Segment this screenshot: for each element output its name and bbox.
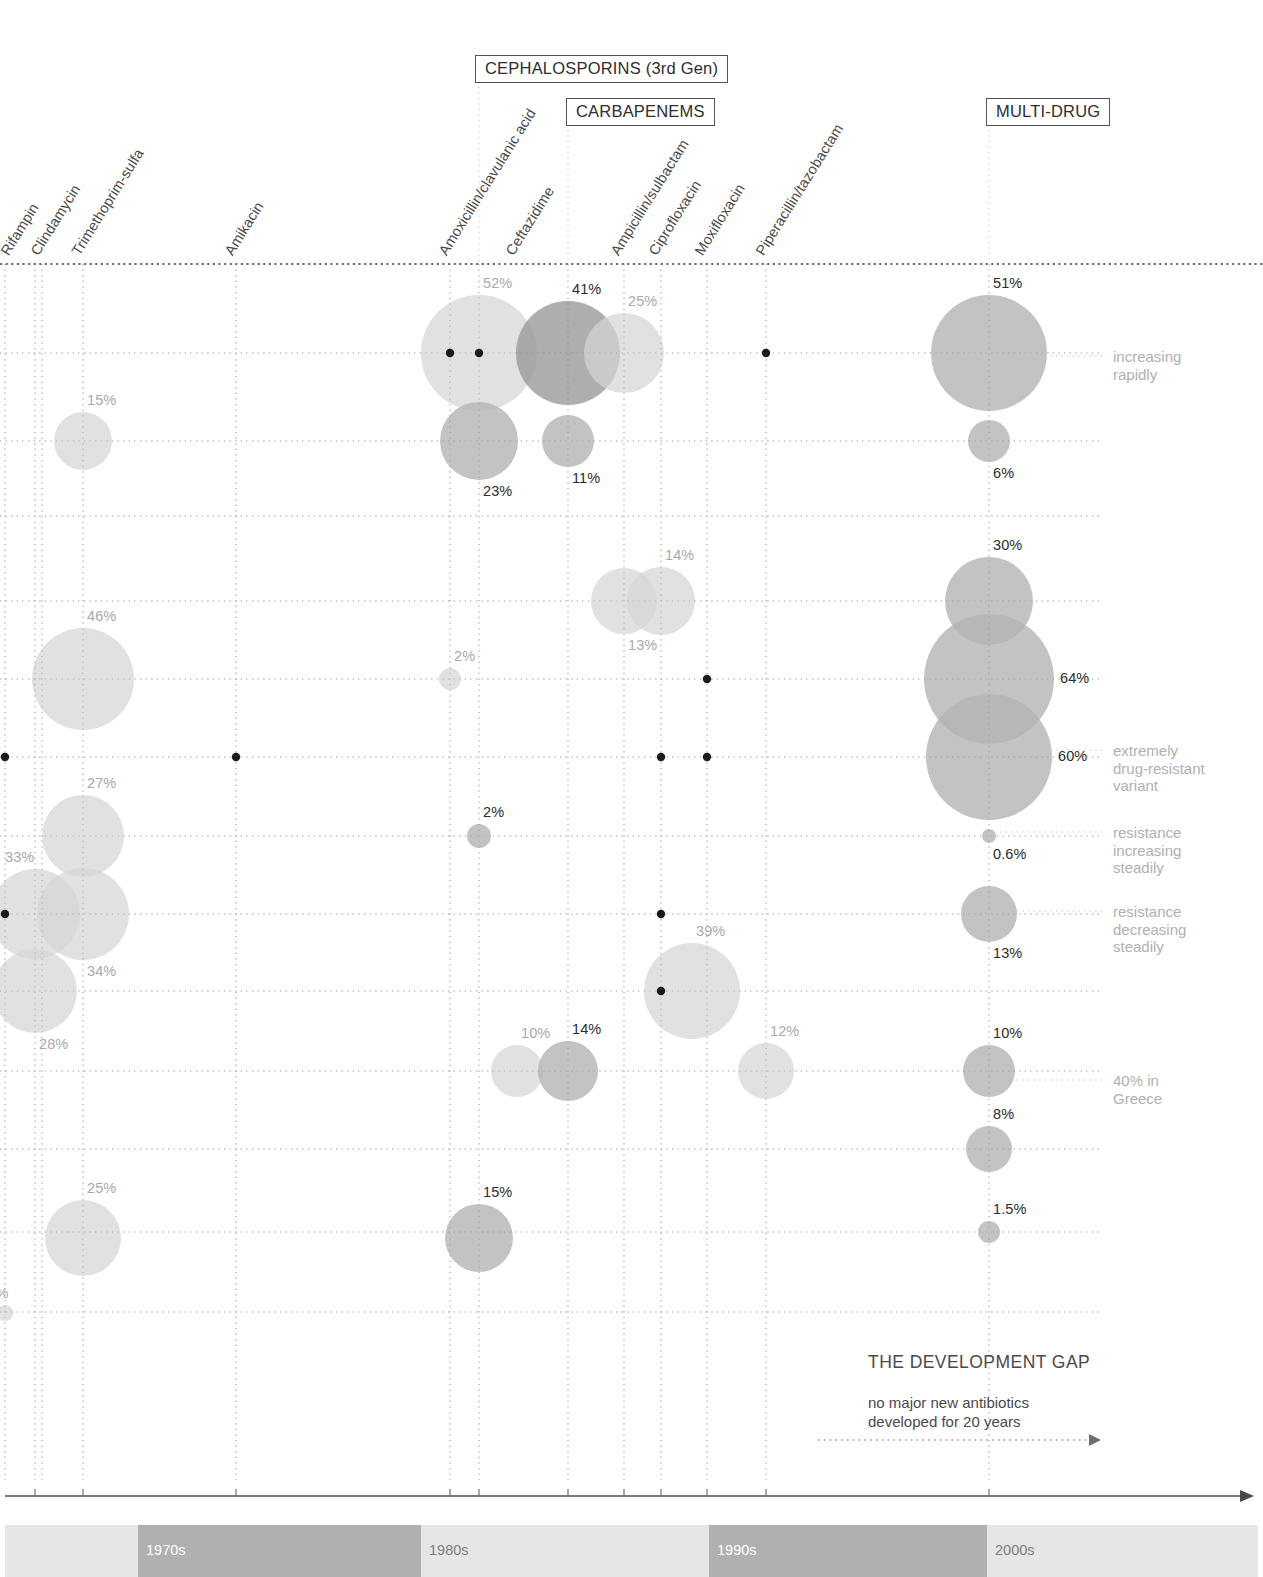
bubble-value-label: 13% (628, 637, 657, 653)
bubble-value-label: 8% (993, 1106, 1014, 1122)
decade-label-1980s: 1980s (429, 1542, 469, 1558)
bubble-value-label: 27% (87, 775, 116, 791)
bubble-value-label: 25% (87, 1180, 116, 1196)
chart-annotation: extremely drug-resistant variant (1113, 742, 1205, 795)
bubble-value-label: 11% (572, 470, 600, 486)
bubble-value-label: 2% (454, 648, 475, 664)
chart-canvas: RifampinClindamycinTrimethoprim-sulfaAmi… (0, 0, 1263, 1577)
bubble[interactable] (584, 313, 664, 393)
development-gap-subtitle: no major new antibiotics developed for 2… (868, 1394, 1029, 1432)
bubble-value-label: 60% (1058, 748, 1087, 764)
bubble-value-label: 25% (628, 293, 657, 309)
bubble[interactable] (978, 1221, 1000, 1243)
bubble-value-label: 2% (483, 804, 504, 820)
bubble-value-label: 15% (483, 1184, 512, 1200)
introduction-marker-dot[interactable] (657, 910, 665, 918)
introduction-marker-dot[interactable] (762, 349, 770, 357)
timeline-axis-arrowhead (1240, 1490, 1254, 1502)
bubble-value-label: 41% (572, 281, 601, 297)
bubble-value-label: 0.8% (0, 1285, 8, 1301)
class-box-cephalosporins-3rd-gen-: CEPHALOSPORINS (3rd Gen) (475, 55, 728, 83)
chart-annotation: resistance decreasing steadily (1113, 903, 1186, 956)
bubble-value-label: 1.5% (993, 1201, 1026, 1217)
bubble-value-label: 30% (993, 537, 1022, 553)
timeline-axis (5, 1489, 1254, 1502)
development-gap-title: THE DEVELOPMENT GAP (868, 1352, 1090, 1373)
development-gap-arrow (818, 1434, 1101, 1446)
introduction-marker-dot[interactable] (1, 753, 9, 761)
bubble[interactable] (0, 1305, 13, 1321)
bubble-value-label: 14% (572, 1021, 601, 1037)
bubble-value-label: 39% (696, 923, 725, 939)
bubble[interactable] (968, 420, 1010, 462)
decade-label-1990s: 1990s (717, 1542, 757, 1558)
bubble-value-label: 6% (993, 465, 1014, 481)
class-box-carbapenems: CARBAPENEMS (566, 98, 715, 126)
bubble-value-label: 10% (521, 1025, 550, 1041)
bubble-value-label: 12% (770, 1023, 799, 1039)
introduction-marker-dot[interactable] (446, 349, 454, 357)
decade-segment (5, 1525, 138, 1577)
bubble-value-label: 52% (483, 275, 512, 291)
chart-annotation: 40% in Greece (1113, 1072, 1162, 1107)
introduction-marker-dot[interactable] (703, 753, 711, 761)
bubble-value-label: 0.6% (993, 846, 1026, 862)
introduction-marker-dot[interactable] (657, 753, 665, 761)
development-gap-arrowhead (1089, 1434, 1101, 1446)
decade-label-1970s: 1970s (146, 1542, 186, 1558)
bubble[interactable] (440, 402, 518, 480)
bubble-value-label: 64% (1060, 670, 1089, 686)
decade-label-2000s: 2000s (995, 1542, 1035, 1558)
introduction-marker-dot[interactable] (657, 987, 665, 995)
bubble-value-label: 10% (993, 1025, 1022, 1041)
introduction-marker-dot[interactable] (232, 753, 240, 761)
bubble-value-label: 28% (39, 1036, 68, 1052)
bubble-value-label: 34% (87, 963, 116, 979)
class-box-multi-drug: MULTI-DRUG (986, 98, 1110, 126)
bubble-value-label: 23% (483, 483, 512, 499)
bubble-value-label: 46% (87, 608, 116, 624)
bubble-value-label: 14% (665, 547, 694, 563)
bubble-value-label: 33% (5, 849, 34, 865)
introduction-marker-dot[interactable] (475, 349, 483, 357)
bubble-value-label: 15% (87, 392, 116, 408)
chart-annotation: resistance increasing steadily (1113, 824, 1181, 877)
bubble-value-label: 51% (993, 275, 1022, 291)
decade-timeline-band: 1970s1980s1990s2000s (5, 1525, 1258, 1577)
introduction-marker-dot[interactable] (1, 910, 9, 918)
bubble-value-label: 13% (993, 945, 1022, 961)
chart-annotation: increasing rapidly (1113, 348, 1181, 383)
horizontal-gridlines (0, 353, 1100, 1312)
bubble-group (0, 295, 1054, 1321)
introduction-marker-dot[interactable] (703, 675, 711, 683)
